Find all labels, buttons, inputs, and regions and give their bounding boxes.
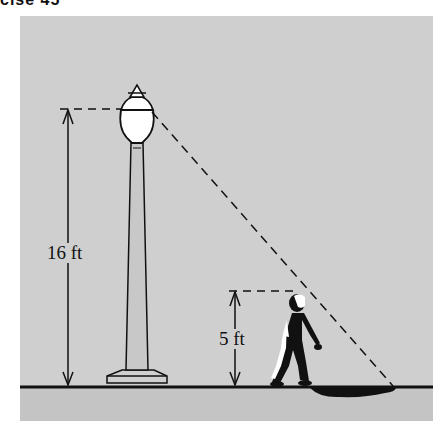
lamp-globe xyxy=(120,110,154,143)
light-ray-line xyxy=(152,112,393,386)
lamp-post xyxy=(107,85,167,383)
person-height-label: 5 ft xyxy=(218,329,246,349)
diagram-svg xyxy=(0,0,448,431)
lamp-height-label: 16 ft xyxy=(46,243,83,263)
walking-person xyxy=(270,294,322,387)
